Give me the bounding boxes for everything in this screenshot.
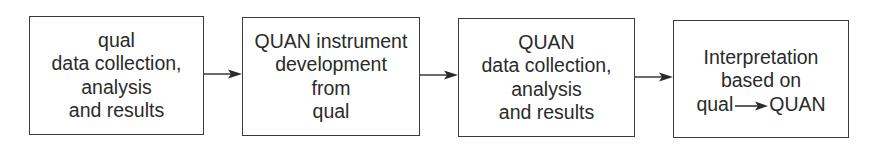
arrow-right-icon [420, 70, 458, 80]
box-text: QUAN data collection, analysis and resul… [481, 31, 611, 125]
interpretation-box: Interpretation based on qualQUAN [673, 20, 849, 138]
box-line: analysis [51, 76, 181, 100]
box-text: qual data collection, analysis and resul… [51, 29, 181, 123]
box-line: based on [696, 69, 825, 93]
flow-arrow-2 [420, 70, 458, 80]
box-line: data collection, [481, 54, 611, 78]
quan-label: QUAN [769, 93, 825, 115]
box-line: development [255, 53, 408, 77]
box-line: qual [51, 29, 181, 53]
arrow-right-icon [204, 69, 242, 79]
quan-instrument-development-box: QUAN instrument development from qual [242, 17, 420, 136]
box-line: and results [51, 99, 181, 123]
box-line: qual [255, 100, 408, 124]
box-line: analysis [481, 78, 611, 102]
flow-arrow-1 [204, 69, 242, 79]
qual-data-collection-box: qual data collection, analysis and resul… [29, 16, 204, 135]
box-line: Interpretation [696, 46, 825, 70]
arrow-right-icon [734, 101, 768, 111]
arrow-right-icon [635, 72, 673, 82]
flow-arrow-3 [635, 72, 673, 82]
qual-label: qual [696, 93, 733, 115]
box-line: QUAN instrument [255, 30, 408, 54]
box-line: from [255, 77, 408, 101]
box-line: QUAN [481, 31, 611, 55]
box-line: data collection, [51, 52, 181, 76]
box-text: Interpretation based on qualQUAN [696, 42, 825, 117]
box-line: and results [481, 101, 611, 125]
qual-to-quan-line: qualQUAN [696, 93, 825, 117]
quan-data-collection-box: QUAN data collection, analysis and resul… [458, 18, 635, 137]
box-text: QUAN instrument development from qual [255, 30, 408, 124]
